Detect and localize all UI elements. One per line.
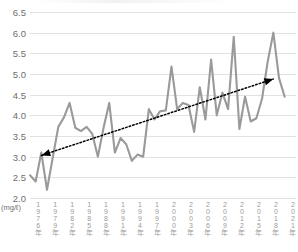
x-axis-tick-label: 2021年 — [284, 201, 296, 236]
x-axis-tick-label: 2018年 — [267, 201, 279, 236]
plot-area — [30, 12, 296, 198]
y-axis-tick-label: 5.5 — [0, 49, 26, 58]
line-series-measurement — [30, 33, 285, 190]
x-axis-tick-label: 2015年 — [250, 201, 262, 236]
x-axis-tick-label: 1976年 — [30, 201, 42, 236]
gridline — [30, 198, 296, 199]
y-axis-tick-label: 6.5 — [0, 8, 26, 17]
arrow-left-head-icon — [41, 149, 51, 156]
y-axis-tick-label: 5.0 — [0, 70, 26, 79]
x-axis-tick-label: 1991年 — [115, 201, 127, 236]
y-axis-tick-label: 3.5 — [0, 132, 26, 141]
x-axis-tick-label: 2003年 — [182, 201, 194, 236]
x-axis-tick-label: 1979年 — [47, 201, 59, 236]
y-axis-tick-label: 3.0 — [0, 152, 26, 161]
y-axis-tick-label: 2.0 — [0, 194, 26, 203]
y-axis-unit-label: (mg/ℓ) — [1, 203, 21, 212]
x-axis-tick-label: 1997年 — [149, 201, 161, 236]
top-edge-artifact — [35, 0, 235, 3]
chart-container: 6.56.05.55.04.54.03.53.02.52.0 (mg/ℓ) 19… — [0, 0, 298, 252]
x-axis-tick-label: 2009年 — [216, 201, 228, 236]
y-axis-tick-label: 2.5 — [0, 173, 26, 182]
x-axis-tick-label: 1985年 — [81, 201, 93, 236]
x-axis-tick-label: 2006年 — [199, 201, 211, 236]
x-axis-tick-label: 1988年 — [98, 201, 110, 236]
y-axis-tick-label: 6.0 — [0, 28, 26, 37]
x-axis-tick-label: 2000年 — [165, 201, 177, 236]
x-axis-tick-label: 1982年 — [64, 201, 76, 236]
x-axis-tick-label: 1994年 — [132, 201, 144, 236]
data-series-svg — [30, 12, 296, 198]
x-axis-tick-label: 2012年 — [233, 201, 245, 236]
y-axis-tick-label: 4.5 — [0, 90, 26, 99]
y-axis-tick-label: 4.0 — [0, 111, 26, 120]
